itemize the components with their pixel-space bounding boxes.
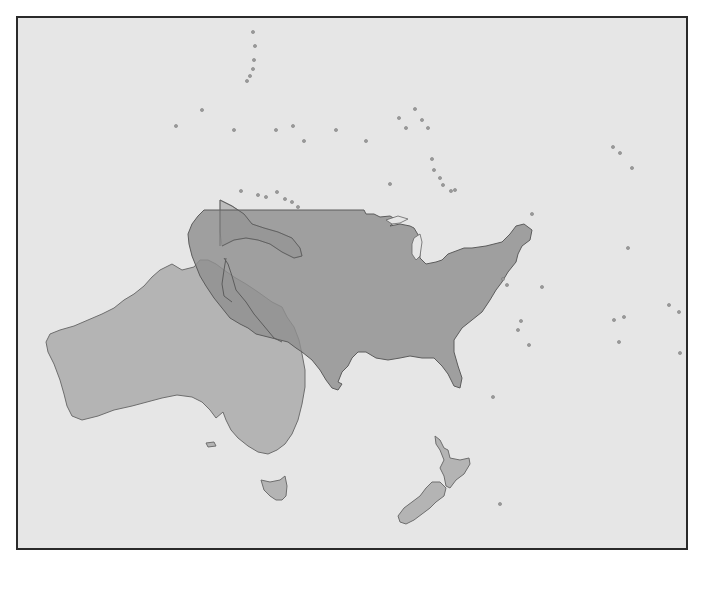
island-dot	[251, 67, 254, 70]
island-dot	[251, 30, 254, 33]
island-dot	[200, 108, 203, 111]
island-dot	[432, 168, 435, 171]
island-dot	[501, 277, 504, 280]
island-dot	[290, 200, 293, 203]
island-dot	[491, 395, 494, 398]
island-dot	[397, 116, 400, 119]
island-dot	[253, 44, 256, 47]
new-zealand-south-island[interactable]	[398, 482, 446, 524]
island-dot	[453, 188, 456, 191]
island-dot	[232, 128, 235, 131]
island-dot	[248, 74, 251, 77]
island-dot	[505, 283, 508, 286]
island-dot	[404, 126, 407, 129]
island-dot	[667, 303, 670, 306]
island-dot	[264, 195, 267, 198]
island-dot	[420, 118, 423, 121]
kangaroo-island	[206, 442, 216, 447]
map-frame	[16, 16, 688, 550]
new-zealand-north-island[interactable]	[435, 436, 470, 488]
island-dot	[441, 183, 444, 186]
island-dot	[530, 212, 533, 215]
island-dot	[449, 189, 452, 192]
island-dot	[364, 139, 367, 142]
island-dot	[618, 151, 621, 154]
island-dot	[426, 126, 429, 129]
island-dot	[630, 166, 633, 169]
island-dot	[239, 189, 242, 192]
island-dot	[527, 343, 530, 346]
island-dot	[617, 340, 620, 343]
island-dot	[291, 124, 294, 127]
island-dot	[413, 107, 416, 110]
island-dot	[296, 205, 299, 208]
island-dot	[252, 58, 255, 61]
island-dot	[430, 157, 433, 160]
island-dot	[677, 310, 680, 313]
island-dot	[678, 351, 681, 354]
island-dot	[612, 318, 615, 321]
island-dot	[275, 190, 278, 193]
map-canvas	[16, 16, 688, 550]
island-dot	[498, 502, 501, 505]
island-dot	[245, 79, 248, 82]
island-dot	[438, 176, 441, 179]
island-dot	[388, 182, 391, 185]
island-dot	[302, 139, 305, 142]
island-dot	[283, 197, 286, 200]
island-dot	[626, 246, 629, 249]
island-dot	[519, 319, 522, 322]
island-dot	[611, 145, 614, 148]
island-dot	[622, 315, 625, 318]
island-dot	[334, 128, 337, 131]
island-dot	[274, 128, 277, 131]
island-dot	[256, 193, 259, 196]
tasmania-landmass[interactable]	[261, 476, 287, 500]
island-dot	[540, 285, 543, 288]
island-dot	[516, 328, 519, 331]
island-dot	[174, 124, 177, 127]
